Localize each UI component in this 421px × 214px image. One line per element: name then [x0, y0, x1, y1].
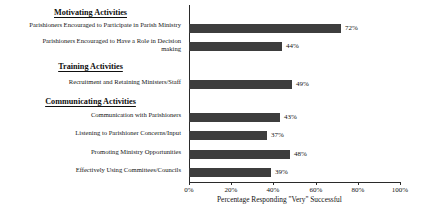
bar-value-recruitment-retaining: 49% [296, 80, 309, 89]
chart-figure: Motivating Activities Parishioners Encou… [0, 0, 421, 214]
x-tick-label-60: 60% [310, 186, 323, 195]
x-tick-label-40: 40% [267, 186, 280, 195]
category-label-recruitment-retaining: Recruitment and Retaining Ministers/Staf… [4, 78, 185, 86]
bar-value-promoting-opportunities: 48% [294, 150, 307, 159]
bar-value-communication-parishioners: 43% [284, 113, 297, 122]
section-header-motivating-text: Motivating Activities [54, 8, 127, 17]
bar-value-role-in-decision-making: 44% [286, 42, 299, 51]
x-tick-80 [358, 182, 359, 185]
category-label-line1: Parishioners Encouraged to Have a Role i… [42, 37, 181, 44]
x-tick-label-0: 0% [184, 186, 193, 195]
category-label-promoting-opportunities: Promoting Ministry Opportunities [4, 148, 185, 156]
section-header-training-text: Training Activities [58, 62, 123, 71]
x-axis-line [189, 182, 400, 183]
section-header-motivating: Motivating Activities [0, 8, 181, 18]
x-tick-label-80: 80% [352, 186, 365, 195]
section-header-training: Training Activities [0, 62, 181, 72]
section-header-communicating: Communicating Activities [0, 97, 181, 107]
plot-area: 0% 20% 40% 60% 80% 100% 72% 44% 49% 43% … [189, 0, 421, 214]
bar-communication-parishioners [189, 113, 280, 122]
bar-value-committees-councils: 39% [275, 168, 288, 177]
x-tick-60 [316, 182, 317, 185]
category-label-listening-concerns: Listening to Parishioner Concerns/Input [4, 129, 185, 137]
category-label-line2: making [161, 45, 181, 52]
bar-participate-parish-ministry [189, 24, 341, 33]
bar-committees-councils [189, 168, 271, 177]
x-tick-0 [189, 182, 190, 185]
x-axis-title: Percentage Responding "Very" Successful [217, 195, 342, 205]
x-tick-label-20: 20% [225, 186, 238, 195]
bar-role-in-decision-making [189, 42, 282, 51]
category-label-role-in-decision-making: Parishioners Encouraged to Have a Role i… [4, 37, 185, 54]
x-tick-40 [273, 182, 274, 185]
x-tick-100 [400, 182, 401, 185]
category-label-committees-councils: Effectively Using Committees/Councils [4, 166, 185, 174]
bar-recruitment-retaining [189, 80, 292, 89]
bar-listening-concerns [189, 131, 267, 140]
bar-value-participate-parish-ministry: 72% [345, 24, 358, 33]
section-header-communicating-text: Communicating Activities [45, 97, 136, 106]
category-label-communication-parishioners: Communication with Parishioners [4, 111, 185, 119]
bar-value-listening-concerns: 37% [271, 131, 284, 140]
bar-promoting-opportunities [189, 150, 290, 159]
x-tick-label-100: 100% [392, 186, 408, 195]
category-label-participate-parish-ministry: Parishioners Encouraged to Participate i… [4, 21, 185, 29]
x-tick-20 [231, 182, 232, 185]
